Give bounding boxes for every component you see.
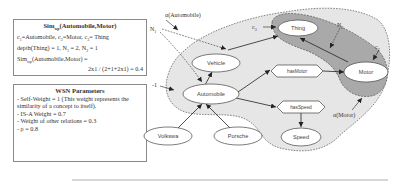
node-speed-label: Speed — [293, 134, 309, 140]
node-automobile: Automobile — [183, 84, 239, 104]
relation-hasspeed-label: hasSpeed — [290, 105, 312, 110]
alpha-automobile-label: α(Automobile) — [165, 12, 201, 19]
node-porsche-label: Porsche — [228, 133, 249, 139]
c3-subscript: 3 — [255, 27, 257, 32]
relation-hasmotor: hasMotor — [271, 65, 323, 77]
n1-label: N1 — [150, 26, 156, 34]
node-thing-label: Thing — [291, 25, 305, 31]
c2-subscript: 2 — [378, 47, 380, 52]
alpha-automobile-pointer — [166, 20, 178, 30]
relation-hasspeed: hasSpeed — [277, 101, 325, 113]
ontology-diagram: Thing Vehicle Automobile Motor Speed Vol… — [0, 0, 404, 183]
node-vehicle-label: Vehicle — [207, 60, 225, 66]
node-porsche: Porsche — [214, 127, 262, 145]
node-volkswa: Volkswa — [144, 127, 192, 145]
node-vehicle: Vehicle — [192, 54, 240, 72]
node-thing: Thing — [278, 20, 318, 36]
node-volkswa-label: Volkswa — [158, 133, 179, 139]
node-automobile-label: Automobile — [197, 91, 225, 97]
node-motor: Motor — [344, 62, 388, 82]
relation-hasmotor-label: hasMotor — [287, 69, 307, 74]
node-speed: Speed — [281, 128, 321, 146]
n1-subscript: 1 — [154, 29, 156, 34]
minus-one-label: -1 — [152, 82, 157, 88]
node-motor-label: Motor — [359, 69, 373, 75]
alpha-motor-label: α(Motor) — [333, 112, 355, 119]
n2-subscript: 2 — [341, 25, 343, 30]
